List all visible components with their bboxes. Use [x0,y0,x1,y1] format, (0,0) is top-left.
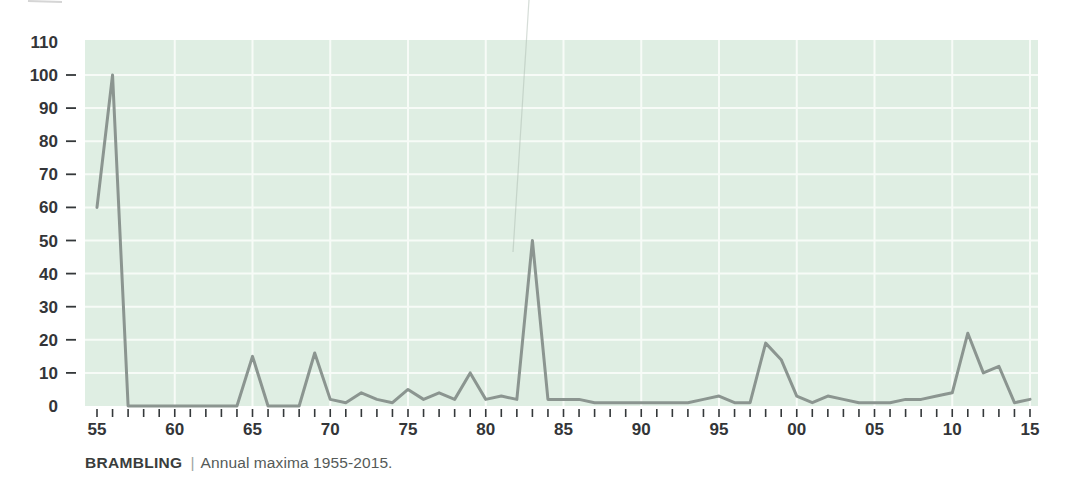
x-axis-label: 65 [243,420,262,439]
plot-background [85,40,1038,406]
x-axis-label: 60 [165,420,184,439]
x-axis-label: 15 [1021,420,1040,439]
caption-separator: | [190,454,194,471]
y-axis-label: 60 [39,198,58,217]
caption-species: BRAMBLING [85,454,182,471]
y-axis-label: 10 [39,364,58,383]
y-axis-label: 110 [31,33,58,52]
y-axis-label: 80 [39,132,58,151]
x-axis-label: 85 [554,420,573,439]
caption-text: Annual maxima 1955-2015. [201,454,393,471]
y-axis-label: 0 [49,397,58,416]
y-axis-label: 50 [39,232,58,251]
y-axis-label: 20 [39,331,58,350]
x-axis-label: 55 [88,420,107,439]
y-axis-label: 100 [30,66,58,85]
x-axis-label: 90 [632,420,651,439]
y-axis-label: 30 [39,298,58,317]
y-axis-label: 40 [39,265,58,284]
x-axis-label: 00 [787,420,806,439]
x-axis-label: 05 [865,420,884,439]
page: 5560657075808590950005101501020304050607… [0,0,1074,492]
scan-artifact-smudge [28,1,62,2]
x-axis-label: 80 [476,420,495,439]
x-axis-label: 95 [710,420,729,439]
chart: 5560657075808590950005101501020304050607… [0,0,1074,492]
chart-caption: BRAMBLING|Annual maxima 1955-2015. [85,454,393,472]
x-axis-label: 70 [321,420,340,439]
x-axis-label: 75 [399,420,418,439]
x-axis-label: 10 [943,420,962,439]
y-axis-label: 70 [39,165,58,184]
y-axis-label: 90 [39,99,58,118]
